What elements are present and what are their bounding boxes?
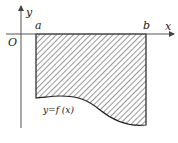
x-axis-label: x — [165, 20, 172, 33]
curve-label: y=f (x) — [42, 105, 74, 115]
a-label: a — [35, 19, 42, 32]
y-axis-label: y — [25, 6, 33, 19]
origin-label: O — [8, 36, 17, 49]
b-label: b — [143, 19, 150, 32]
area-diagram: y x O a b y=f (x) — [0, 0, 178, 143]
